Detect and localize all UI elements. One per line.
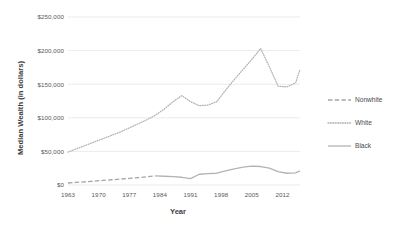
legend-label-white: White — [355, 119, 372, 126]
y-tick-label-4: $200,000 — [18, 47, 64, 54]
x-axis-title: Year — [170, 207, 186, 216]
x-tick-label-3: 1984 — [146, 191, 174, 198]
legend-marks-group — [328, 100, 351, 146]
x-tick-label-4: 1991 — [177, 191, 205, 198]
x-tick-label-0: 1963 — [54, 191, 82, 198]
y-tick-label-0: $0 — [18, 181, 64, 188]
x-tick-label-2: 1977 — [115, 191, 143, 198]
x-tick-label-1: 1970 — [85, 191, 113, 198]
series-line-white — [68, 49, 300, 152]
legend-label-black: Black — [355, 142, 371, 149]
x-tick-label-7: 2012 — [268, 191, 296, 198]
series-line-black — [156, 166, 300, 178]
gridline-group — [68, 17, 300, 185]
series-group — [68, 49, 300, 183]
x-tick-label-5: 1998 — [207, 191, 235, 198]
y-tick-label-5: $250,000 — [18, 13, 64, 20]
legend-label-nonwhite: Nonwhite — [355, 96, 383, 103]
x-tick-label-6: 2005 — [238, 191, 266, 198]
y-axis-title: Median Wealth (in dollars) — [16, 61, 25, 155]
series-line-nonwhite — [68, 176, 156, 183]
chart-container: $0$50,000$100,000$150,000$200,000$250,00… — [0, 0, 402, 229]
